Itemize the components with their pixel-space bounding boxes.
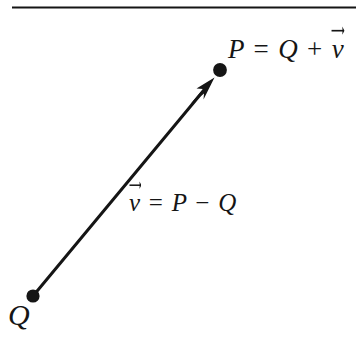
label-point-q: Q xyxy=(8,300,30,330)
point-p-dot xyxy=(213,63,227,77)
label-v-operator-equals: = xyxy=(146,189,165,216)
label-p-term-q: Q xyxy=(278,34,298,64)
label-vector-definition-equation: v = P − Q xyxy=(129,190,236,215)
vector-diagram-figure: P = Q + v v = P − Q Q xyxy=(0,0,358,352)
label-p-vector-letter: v xyxy=(332,36,344,63)
label-p-operator-equals: = xyxy=(251,34,272,64)
label-v-vector-letter: v xyxy=(129,190,140,215)
label-point-p-equation: P = Q + v xyxy=(228,36,344,63)
label-v-term-q: Q xyxy=(218,189,236,216)
label-v-operator-minus: − xyxy=(193,189,212,216)
label-v-term-p: P xyxy=(172,189,187,216)
label-p-operator-plus: + xyxy=(304,34,325,64)
label-v-term-vector-v: v xyxy=(129,190,140,215)
label-p-term-p: P xyxy=(228,34,244,64)
vector-arrowhead-icon xyxy=(191,78,215,105)
label-p-term-vector-v: v xyxy=(332,36,344,63)
